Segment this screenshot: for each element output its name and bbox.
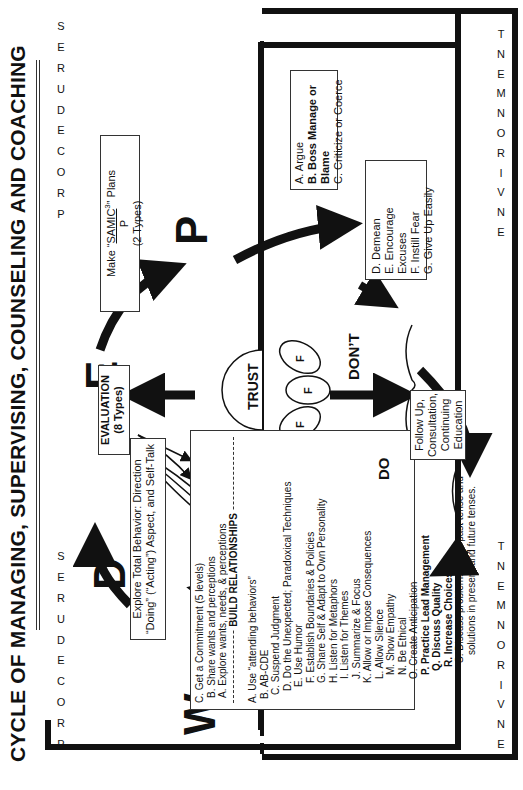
relationship-item: G. Share Self & Adapt to Own Personality [316, 437, 328, 703]
relationship-item: solutions in present and future tenses. [466, 437, 478, 703]
arrow-dont1-to-dont2 [360, 285, 385, 300]
relationship-item: C. Suspend Judgment [270, 437, 282, 703]
relationship-item: H. Listen for Metaphors [328, 437, 340, 703]
trust-petal-f: F [294, 421, 306, 428]
dont-item: E. Encourage Excuses [383, 166, 409, 274]
relationship-item: D. Do the Unexpected; Paradoxical Techni… [282, 437, 294, 703]
evaluation-title: EVALUATION [99, 366, 112, 454]
dont-label: DON’T [345, 333, 362, 380]
dont-item: F. Instill Fear [409, 166, 422, 274]
dont-item: A. Argue [293, 76, 306, 184]
relationship-item: F. Establish Boundaries & Policies [305, 437, 317, 703]
dont-box-2: D. Demean E. Encourage Excuses F. Instil… [365, 160, 427, 280]
letter-p: P [170, 216, 214, 245]
plans-types: (2 Types) [131, 136, 144, 311]
trust-label: TRUST [245, 363, 261, 410]
explore-box: Explore Total Behavior: Direction “Doing… [130, 438, 166, 640]
relationship-item: Q. Discuss Quality [431, 437, 443, 703]
explore-line-2: “Doing” (“Acting”) Aspect, and Self-Talk [144, 439, 157, 639]
followup-box: Follow Up, Consultation, Continuing Educ… [410, 390, 466, 460]
plans-box: Make “SAMIC3” Plans P (2 Types) [100, 135, 140, 312]
evaluation-box: EVALUATION (8 Types) [98, 365, 130, 455]
relationship-item: A. Use “attending behaviors” [247, 437, 259, 703]
relationship-item: O. Create Anticipation [408, 437, 420, 703]
relationship-item: J. Summarize & Focus [351, 437, 363, 703]
relationship-item: E. Use Humor [293, 437, 305, 703]
build-relationships-header: BUILD RELATIONSHIPS [228, 510, 239, 630]
relationship-item: K. Allow or Impose Consequences [362, 437, 374, 703]
trust-petal-f: F [294, 355, 306, 362]
arrow-p-to-dont [235, 225, 345, 260]
build-relationships-divider: BUILD RELATIONSHIPS [233, 437, 246, 703]
relationship-item: N. Be Ethical [397, 437, 409, 703]
followup-line: Continuing [439, 391, 452, 459]
followup-line: Consultation, [426, 391, 439, 459]
dont-item: D. Demean [370, 166, 383, 274]
dont-item: B. Boss Manage or Blame [306, 76, 332, 184]
diagram-canvas: CYCLE OF MANAGING, SUPERVISING, COUNSELI… [0, 0, 523, 790]
relationship-item: S. Discuss problems in the past tense an… [454, 437, 466, 703]
relationship-item: I. Listen for Themes [339, 437, 351, 703]
relationship-item: B. AB-CDE [259, 437, 271, 703]
dont-box-1: A. Argue B. Boss Manage or Blame C. Crit… [290, 70, 338, 190]
followup-line: Follow Up, [413, 391, 426, 459]
relationship-item: P. Practice Lead Management [420, 437, 432, 703]
samic-superscript: 3 [103, 204, 112, 208]
followup-line: Education [452, 391, 465, 459]
do-label: DO [375, 458, 392, 481]
dont-item: G. Give Up Easily [422, 166, 435, 274]
relationship-item: R. Increase Choices [443, 437, 455, 703]
samic-text: SAMIC [105, 209, 117, 244]
w-top-item: B. Share wants and perceptions [206, 437, 218, 703]
evaluation-types: (8 Types) [112, 366, 125, 454]
explore-line-1: Explore Total Behavior: Direction [131, 439, 144, 639]
dont-item: C. Criticize or Coerce [332, 76, 345, 184]
trust-petal-f: F [302, 387, 314, 394]
w-top-item: C. Get a Commitment (5 levels) [194, 437, 206, 703]
plans-denominator: P [118, 136, 131, 311]
w-top-item: A. Explore wants, needs, & perceptions [217, 437, 229, 703]
plans-line: Make “SAMIC3” Plans [101, 136, 118, 311]
letter-d: D [88, 558, 132, 590]
plans-prefix: Make “ [105, 243, 117, 277]
plans-suffix: ” Plans [105, 170, 117, 204]
